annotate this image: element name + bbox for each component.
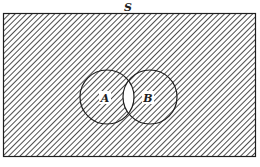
set-a-label: A [100, 92, 110, 105]
venn-diagram: S A B [0, 0, 260, 167]
set-b-label: B [142, 92, 152, 105]
universe-label: S [124, 1, 132, 14]
